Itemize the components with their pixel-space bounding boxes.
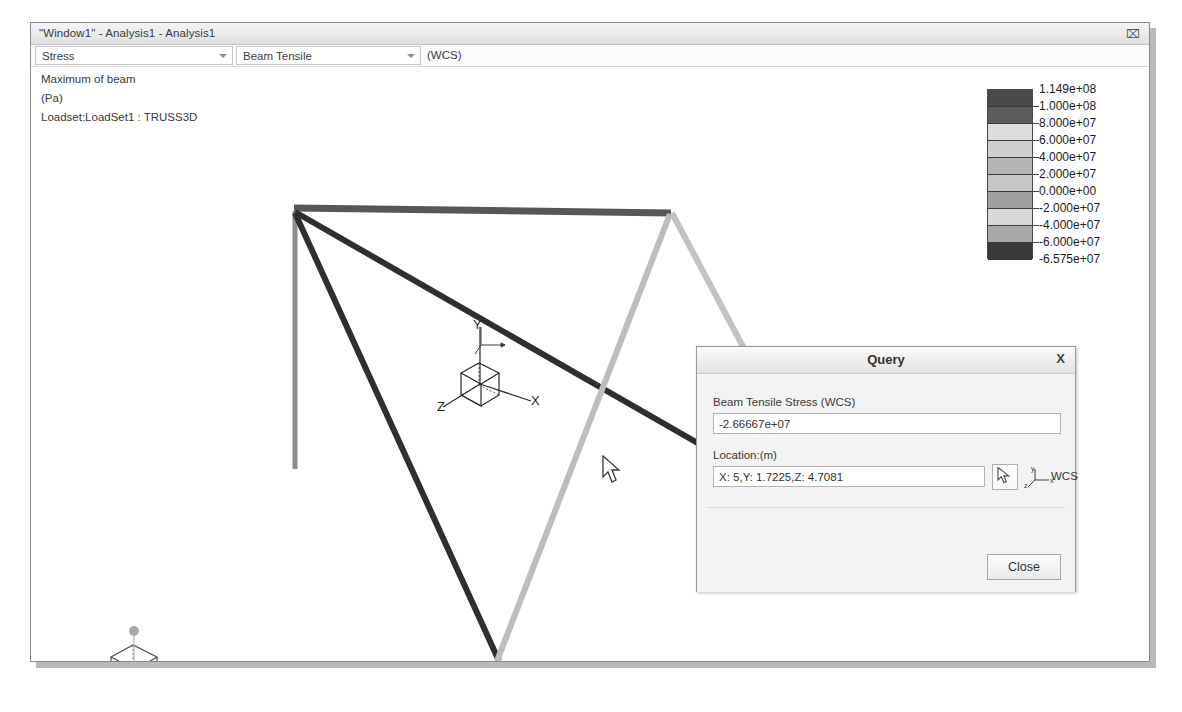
svg-text:y: y <box>1031 466 1035 473</box>
graphics-viewport[interactable]: Maximum of beam (Pa) Loadset:LoadSet1 : … <box>31 67 1149 661</box>
legend-band <box>988 192 1032 209</box>
chevron-down-icon <box>219 54 227 58</box>
window-title: "Window1" - Analysis1 - Analysis1 <box>39 27 215 39</box>
query-dialog[interactable]: Query X Beam Tensile Stress (WCS) Locati… <box>696 346 1076 592</box>
component-dropdown-label: Beam Tensile <box>243 50 312 62</box>
legend-tick <box>1033 106 1039 107</box>
legend-label: -4.000e+07 <box>1039 217 1149 234</box>
query-close-icon[interactable]: X <box>1056 351 1065 366</box>
triad-axis-y-label: Y <box>473 317 482 332</box>
results-window: "Window1" - Analysis1 - Analysis1 ⌧ Stre… <box>30 22 1150 662</box>
mouse-cursor-icon <box>601 455 623 485</box>
close-icon[interactable]: ⌧ <box>1125 26 1141 42</box>
legend-label-list: 1.149e+081.000e+088.000e+076.000e+074.00… <box>1039 81 1149 268</box>
svg-text:z: z <box>1024 482 1028 489</box>
legend-tick <box>1033 140 1039 141</box>
legend-tick <box>1033 191 1039 192</box>
pick-location-button[interactable] <box>992 464 1018 490</box>
component-dropdown[interactable]: Beam Tensile <box>236 46 421 65</box>
legend-tick <box>1033 208 1039 209</box>
legend-band <box>988 107 1032 124</box>
triad-axis-z-label: Z <box>437 399 445 414</box>
query-dialog-title: Query <box>697 352 1075 367</box>
quantity-dropdown-label: Stress <box>42 50 75 62</box>
legend-label: -2.000e+07 <box>1039 200 1149 217</box>
legend-band <box>988 209 1032 226</box>
model-origin-triad: X Y Z <box>435 315 545 420</box>
member-light-diagonal <box>497 214 670 661</box>
member-lower-left-diagonal <box>295 213 499 661</box>
legend-band <box>988 90 1032 107</box>
legend-bar <box>987 89 1033 259</box>
legend-band <box>988 226 1032 243</box>
coordinate-system-note: (WCS) <box>427 49 462 61</box>
view-orientation-triad[interactable]: x <box>89 615 199 661</box>
legend-label: 8.000e+07 <box>1039 115 1149 132</box>
wcs-label: WCS <box>1051 470 1078 482</box>
legend-label: 4.000e+07 <box>1039 149 1149 166</box>
location-field-label: Location:(m) <box>713 449 777 461</box>
legend-label: 0.000e+00 <box>1039 183 1149 200</box>
query-dialog-separator <box>707 507 1065 508</box>
legend-tick <box>1033 242 1039 243</box>
legend-band <box>988 141 1032 158</box>
legend-tick <box>1033 225 1039 226</box>
query-dialog-body: Beam Tensile Stress (WCS) Location:(m) <box>697 374 1075 592</box>
legend-label: 2.000e+07 <box>1039 166 1149 183</box>
stress-value-field[interactable] <box>713 413 1061 434</box>
legend-label: 1.149e+08 <box>1039 81 1149 98</box>
legend-label: -6.575e+07 <box>1039 251 1149 268</box>
screenshot-root: "Window1" - Analysis1 - Analysis1 ⌧ Stre… <box>0 0 1182 712</box>
query-dialog-titlebar: Query X <box>697 347 1075 374</box>
location-value-field[interactable] <box>713 466 985 487</box>
window-title-bar: "Window1" - Analysis1 - Analysis1 ⌧ <box>31 23 1149 45</box>
chevron-down-icon <box>407 54 415 58</box>
legend-band <box>988 243 1032 260</box>
pick-cursor-icon <box>993 465 1013 485</box>
legend-band <box>988 124 1032 141</box>
triad-axis-x-label: X <box>531 393 540 408</box>
legend-tick <box>1033 157 1039 158</box>
legend-label: -6.000e+07 <box>1039 234 1149 251</box>
legend-tick <box>1033 174 1039 175</box>
legend-band <box>988 175 1032 192</box>
close-button[interactable]: Close <box>987 554 1061 580</box>
legend-label: 6.000e+07 <box>1039 132 1149 149</box>
stress-field-label: Beam Tensile Stress (WCS) <box>713 396 855 408</box>
legend-label: 1.000e+08 <box>1039 98 1149 115</box>
quantity-dropdown[interactable]: Stress <box>35 46 233 65</box>
legend-band <box>988 158 1032 175</box>
legend-tick <box>1033 123 1039 124</box>
quantity-selector-row: Stress Beam Tensile (WCS) <box>31 45 1149 67</box>
member-top-chord <box>294 208 671 213</box>
